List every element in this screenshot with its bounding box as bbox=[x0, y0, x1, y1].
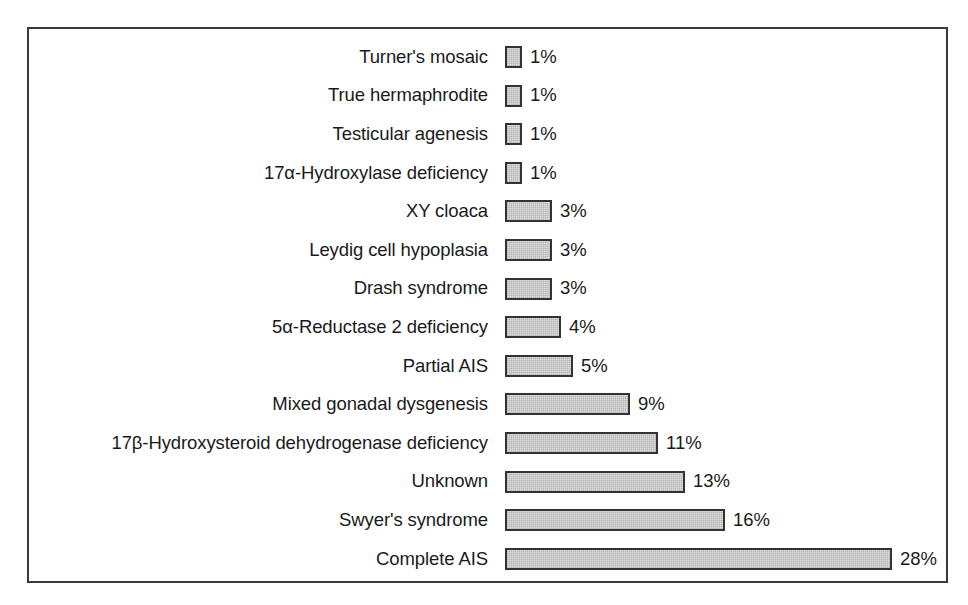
bar-and-value: 13% bbox=[505, 471, 730, 493]
bar-value-label: 3% bbox=[560, 279, 587, 298]
bar-row: Complete AIS28% bbox=[29, 544, 946, 574]
bar-category-label: Drash syndrome bbox=[29, 279, 497, 298]
bar-category-label: Unknown bbox=[29, 472, 497, 491]
bar-category-label: XY cloaca bbox=[29, 202, 497, 221]
bar-and-value: 9% bbox=[505, 393, 665, 415]
bar-rect bbox=[505, 123, 522, 145]
bar-row: Drash syndrome3% bbox=[29, 274, 946, 304]
bar-row: Unknown13% bbox=[29, 467, 946, 497]
bar-category-label: Leydig cell hypoplasia bbox=[29, 241, 497, 260]
bar-value-label: 3% bbox=[560, 202, 587, 221]
bar-row: Testicular agenesis1% bbox=[29, 119, 946, 149]
bar-rect bbox=[505, 239, 552, 261]
bar-value-label: 4% bbox=[569, 318, 596, 337]
bar-value-label: 16% bbox=[733, 511, 770, 530]
bar-and-value: 4% bbox=[505, 316, 596, 338]
bar-rect bbox=[505, 200, 552, 222]
bar-row: Partial AIS5% bbox=[29, 351, 946, 381]
bar-rect bbox=[505, 471, 685, 493]
bar-category-label: Testicular agenesis bbox=[29, 125, 497, 144]
bar-and-value: 11% bbox=[505, 432, 702, 454]
bar-rect bbox=[505, 85, 522, 107]
bar-and-value: 1% bbox=[505, 162, 557, 184]
chart-frame: Turner's mosaic1%True hermaphrodite1%Tes… bbox=[27, 27, 948, 583]
bar-and-value: 1% bbox=[505, 46, 557, 68]
bar-rect bbox=[505, 162, 522, 184]
bar-row: Leydig cell hypoplasia3% bbox=[29, 235, 946, 265]
bar-rect bbox=[505, 316, 561, 338]
bar-and-value: 1% bbox=[505, 85, 557, 107]
bar-and-value: 3% bbox=[505, 239, 587, 261]
bar-row: XY cloaca3% bbox=[29, 196, 946, 226]
bar-row: Turner's mosaic1% bbox=[29, 42, 946, 72]
bar-category-label: Turner's mosaic bbox=[29, 48, 497, 67]
bar-row: 17β-Hydroxysteroid dehydrogenase deficie… bbox=[29, 428, 946, 458]
bar-and-value: 28% bbox=[505, 548, 937, 570]
bar-rect bbox=[505, 548, 892, 570]
bar-value-label: 1% bbox=[530, 164, 557, 183]
bar-value-label: 5% bbox=[581, 357, 608, 376]
bar-and-value: 3% bbox=[505, 278, 587, 300]
bar-value-label: 1% bbox=[530, 125, 557, 144]
bar-rect bbox=[505, 355, 573, 377]
bar-and-value: 5% bbox=[505, 355, 608, 377]
bar-value-label: 13% bbox=[693, 472, 730, 491]
bar-and-value: 1% bbox=[505, 123, 557, 145]
bar-row: 17α-Hydroxylase deficiency1% bbox=[29, 158, 946, 188]
bar-rect bbox=[505, 278, 552, 300]
bar-row: True hermaphrodite1% bbox=[29, 81, 946, 111]
bar-value-label: 28% bbox=[900, 550, 937, 569]
bar-category-label: 17α-Hydroxylase deficiency bbox=[29, 164, 497, 183]
bar-row: Swyer's syndrome16% bbox=[29, 505, 946, 535]
bar-rect bbox=[505, 46, 522, 68]
bar-category-label: Partial AIS bbox=[29, 357, 497, 376]
bar-row: 5α-Reductase 2 deficiency4% bbox=[29, 312, 946, 342]
bar-category-label: Complete AIS bbox=[29, 550, 497, 569]
bar-category-label: True hermaphrodite bbox=[29, 86, 497, 105]
bar-value-label: 9% bbox=[638, 395, 665, 414]
bar-category-label: Mixed gonadal dysgenesis bbox=[29, 395, 497, 414]
bar-value-label: 1% bbox=[530, 48, 557, 67]
bar-value-label: 3% bbox=[560, 241, 587, 260]
bar-category-label: 17β-Hydroxysteroid dehydrogenase deficie… bbox=[29, 434, 497, 453]
bar-and-value: 16% bbox=[505, 509, 770, 531]
bar-category-label: Swyer's syndrome bbox=[29, 511, 497, 530]
bar-row: Mixed gonadal dysgenesis9% bbox=[29, 389, 946, 419]
bar-value-label: 11% bbox=[666, 434, 702, 453]
bar-rect bbox=[505, 432, 658, 454]
bar-value-label: 1% bbox=[530, 86, 557, 105]
bar-rect bbox=[505, 393, 630, 415]
bar-category-label: 5α-Reductase 2 deficiency bbox=[29, 318, 497, 337]
bar-rect bbox=[505, 509, 725, 531]
bar-and-value: 3% bbox=[505, 200, 587, 222]
plot-area: Turner's mosaic1%True hermaphrodite1%Tes… bbox=[29, 29, 946, 581]
